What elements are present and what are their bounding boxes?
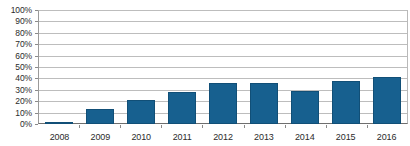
- y-axis-tick: [35, 124, 38, 125]
- y-axis-tick: [35, 44, 38, 45]
- y-axis-tick-label: 60%: [15, 51, 32, 61]
- bar-slot: [80, 10, 121, 124]
- bar-slot: [203, 10, 244, 124]
- y-axis-tick-label: 90%: [15, 16, 32, 26]
- x-axis-tick: [79, 125, 80, 128]
- y-axis-tick: [35, 113, 38, 114]
- bar[interactable]: [168, 92, 196, 124]
- x-axis-tick: [202, 125, 203, 128]
- bar[interactable]: [86, 109, 114, 124]
- x-axis-tick: [161, 125, 162, 128]
- bar-chart: 0%10%20%30%40%50%60%70%80%90%100% 200820…: [0, 0, 410, 146]
- y-axis-tick: [35, 90, 38, 91]
- y-axis-tick-label: 30%: [15, 85, 32, 95]
- y-axis-tick: [35, 78, 38, 79]
- x-axis-tick-label: 2015: [336, 132, 356, 142]
- y-axis-tick: [35, 21, 38, 22]
- x-axis-tick-label: 2009: [91, 132, 111, 142]
- y-axis-tick: [35, 56, 38, 57]
- bar-slot: [366, 10, 407, 124]
- bar-slot: [325, 10, 366, 124]
- x-axis-tick-slot: 2015: [325, 126, 366, 146]
- y-axis: 0%10%20%30%40%50%60%70%80%90%100%: [0, 0, 36, 146]
- y-axis-tick-label: 100%: [11, 5, 32, 15]
- x-axis-tick-label: 2008: [50, 132, 70, 142]
- bar-slot: [284, 10, 325, 124]
- x-axis-tick-slot: 2014: [284, 126, 325, 146]
- y-axis-tick: [35, 101, 38, 102]
- x-axis-tick-label: 2010: [131, 132, 151, 142]
- x-axis-tick-slot: 2012: [203, 126, 244, 146]
- bar-slot: [39, 10, 80, 124]
- y-axis-tick-label: 40%: [15, 73, 32, 83]
- x-axis-tick: [244, 125, 245, 128]
- x-axis-tick-slot: 2011: [162, 126, 203, 146]
- bar[interactable]: [45, 122, 73, 124]
- y-axis-tick-label: 20%: [15, 96, 32, 106]
- x-axis-tick-label: 2014: [295, 132, 315, 142]
- bar[interactable]: [373, 77, 401, 124]
- x-axis-tick-slot: 2010: [121, 126, 162, 146]
- y-axis-tick-label: 10%: [15, 108, 32, 118]
- x-axis-tick: [326, 125, 327, 128]
- y-axis-tick: [35, 33, 38, 34]
- bar-series: [39, 10, 407, 124]
- x-axis-tick-label: 2011: [173, 132, 192, 142]
- bar[interactable]: [291, 91, 319, 124]
- y-axis-tick: [35, 10, 38, 11]
- x-axis-tick-slot: 2016: [366, 126, 407, 146]
- x-axis-tick-slot: 2013: [243, 126, 284, 146]
- x-axis-tick-label: 2012: [213, 132, 233, 142]
- x-axis-tick: [367, 125, 368, 128]
- y-axis-tick-label: 50%: [15, 62, 32, 72]
- x-axis-tick-slot: 2009: [80, 126, 121, 146]
- bar-slot: [121, 10, 162, 124]
- x-axis-tick-label: 2016: [377, 132, 397, 142]
- bar-slot: [162, 10, 203, 124]
- bar[interactable]: [250, 83, 278, 124]
- bar[interactable]: [332, 81, 360, 124]
- bar[interactable]: [209, 83, 237, 124]
- x-axis-tick: [120, 125, 121, 128]
- x-axis-tick: [285, 125, 286, 128]
- x-axis: 200820092010201120122013201420152016: [39, 126, 407, 146]
- y-axis-tick: [35, 67, 38, 68]
- x-axis-tick-slot: 2008: [39, 126, 80, 146]
- x-axis-tick-label: 2013: [254, 132, 274, 142]
- bar[interactable]: [127, 100, 155, 124]
- y-axis-tick-label: 0%: [20, 119, 32, 129]
- y-axis-tick-label: 70%: [15, 39, 32, 49]
- bar-slot: [243, 10, 284, 124]
- y-axis-tick-label: 80%: [15, 28, 32, 38]
